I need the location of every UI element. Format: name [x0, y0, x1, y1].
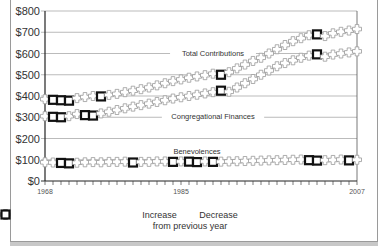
y-tick-label: $800	[16, 5, 40, 17]
y-tick-label: $200	[16, 133, 40, 145]
legend-label-increase: Increase	[142, 210, 177, 220]
decrease-marker	[89, 112, 97, 120]
x-tick-label: 1985	[173, 188, 189, 195]
y-tick-label: $500	[16, 69, 40, 81]
decrease-marker	[217, 71, 225, 79]
decrease-marker	[57, 159, 65, 167]
y-tick-label: $700	[16, 26, 40, 38]
legend-label-decrease: Decrease	[199, 210, 238, 220]
decrease-marker	[185, 158, 193, 166]
decrease-marker	[345, 156, 353, 164]
bold-square-icon	[0, 209, 11, 220]
decrease-marker	[217, 87, 225, 95]
y-tick-label: $600	[16, 48, 40, 60]
legend-item-increase: Increase	[142, 210, 177, 220]
decrease-marker	[313, 50, 321, 58]
legend-item-decrease: Decrease	[199, 210, 238, 220]
decrease-marker	[313, 30, 321, 38]
series-label: Congregational Finances	[171, 112, 255, 121]
x-tick-label: 2007	[349, 188, 365, 195]
series-line	[45, 51, 357, 117]
decrease-marker	[65, 97, 73, 105]
decrease-marker	[49, 113, 57, 121]
decrease-marker	[65, 159, 73, 167]
y-tick-label: $100	[16, 154, 40, 166]
decrease-marker	[97, 92, 105, 100]
decrease-marker	[81, 111, 89, 119]
decrease-marker	[57, 96, 65, 104]
y-tick-label: $0	[28, 175, 40, 187]
series-label: Total Contributions	[182, 49, 244, 58]
y-tick-label: $400	[16, 90, 40, 102]
decrease-marker	[57, 113, 65, 121]
decrease-marker	[129, 159, 137, 167]
decrease-marker	[49, 96, 57, 104]
decrease-marker	[169, 158, 177, 166]
legend-subtitle: from previous year	[0, 221, 380, 231]
series-label: Benevolences	[173, 147, 220, 156]
decrease-marker	[209, 158, 217, 166]
y-tick-label: $300	[16, 111, 40, 123]
decrease-marker	[193, 158, 201, 166]
legend: Increase Decrease	[0, 209, 380, 220]
decrease-marker	[313, 157, 321, 165]
x-tick-label: 1968	[37, 188, 53, 195]
decrease-marker	[305, 156, 313, 164]
